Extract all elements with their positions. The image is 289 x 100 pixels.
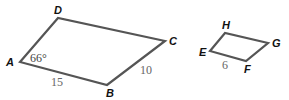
vertex-label-c: C <box>169 35 178 47</box>
similar-quadrilaterals-diagram: A D C B 66° 15 10 E H G F 6 <box>0 0 289 100</box>
vertex-label-h: H <box>222 19 231 31</box>
side-bc-label: 10 <box>140 63 152 77</box>
side-ab-label: 15 <box>51 75 63 89</box>
vertex-label-d: D <box>54 4 62 16</box>
angle-a-label: 66° <box>30 51 47 65</box>
vertex-label-b: B <box>106 87 114 99</box>
vertex-label-e: E <box>199 46 207 58</box>
vertex-label-a: A <box>5 56 14 68</box>
quadrilateral-efgh <box>210 33 268 61</box>
side-ef-label: 6 <box>222 58 228 72</box>
vertex-label-f: F <box>244 63 251 75</box>
vertex-label-g: G <box>272 37 281 49</box>
